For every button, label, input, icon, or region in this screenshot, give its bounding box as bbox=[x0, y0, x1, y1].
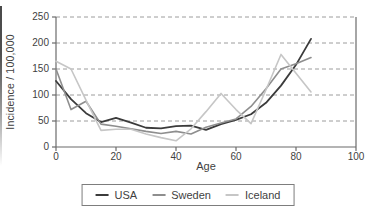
y-axis-title: Incidence / 100,000 bbox=[3, 17, 17, 147]
figure: Incidence / 100,000 Age USA Sweden Icela… bbox=[0, 0, 376, 218]
legend-item-usa: USA bbox=[96, 189, 138, 201]
legend-label-usa: USA bbox=[115, 189, 138, 201]
y-tick-label-100: 100 bbox=[32, 90, 49, 100]
y-tick-label-200: 200 bbox=[32, 38, 49, 48]
iceland-line-swatch bbox=[226, 194, 239, 196]
x-tick-label-60: 60 bbox=[221, 152, 251, 162]
y-tick-label-250: 250 bbox=[32, 12, 49, 22]
y-tick-label-50: 50 bbox=[38, 116, 49, 126]
series-line-iceland bbox=[56, 54, 311, 140]
x-tick-label-20: 20 bbox=[101, 152, 131, 162]
x-tick-label-0: 0 bbox=[41, 152, 71, 162]
x-tick-label-100: 100 bbox=[341, 152, 371, 162]
sweden-line-swatch bbox=[152, 194, 165, 196]
x-tick-label-40: 40 bbox=[161, 152, 191, 162]
legend-item-sweden: Sweden bbox=[152, 189, 211, 201]
x-tick-label-80: 80 bbox=[281, 152, 311, 162]
legend-label-iceland: Iceland bbox=[245, 189, 280, 201]
y-tick-label-150: 150 bbox=[32, 64, 49, 74]
legend-item-iceland: Iceland bbox=[226, 189, 280, 201]
legend-label-sweden: Sweden bbox=[171, 189, 211, 201]
y-tick-label-0: 0 bbox=[43, 142, 49, 152]
legend: USA Sweden Iceland bbox=[82, 184, 295, 206]
usa-line-swatch bbox=[96, 194, 109, 196]
